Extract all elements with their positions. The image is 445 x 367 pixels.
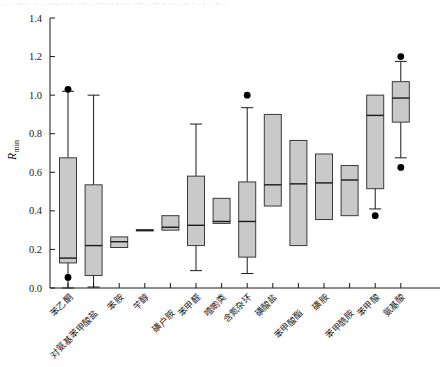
boxplot-group: [341, 166, 358, 288]
outlier-point: [244, 92, 251, 99]
boxplot-group: [316, 154, 333, 288]
boxplot-group: [367, 95, 384, 288]
box-iqr: [392, 82, 409, 123]
boxplot-group: [60, 86, 77, 288]
box-iqr: [341, 166, 358, 216]
x-axis-label: 苯甲酰胺: [323, 308, 356, 341]
outlier-point: [65, 274, 72, 281]
x-axis-label: 磺酸盐: [252, 292, 279, 319]
box-iqr: [85, 185, 102, 276]
outlier-point: [397, 164, 404, 171]
boxplot-group: [290, 140, 307, 288]
boxplot-group: [392, 53, 409, 288]
boxplot-group: [85, 95, 102, 288]
box-iqr: [367, 95, 384, 189]
boxplot-canvas: 0.00.20.40.60.81.01.21.4Rmin苯乙酮对氨基苯甲酸盐苯胺…: [0, 0, 445, 367]
box-iqr: [60, 158, 77, 263]
y-axis-title-base: R: [6, 153, 18, 161]
x-axis-label: 磺户胺: [150, 308, 177, 335]
x-axis-label-group: 磺酸盐: [252, 292, 279, 319]
x-axis-label: 苯甲酸酯: [272, 308, 305, 341]
x-axis-label-group: 磺户胺: [150, 308, 177, 335]
y-axis-title: Rmin: [6, 140, 21, 161]
box-iqr: [213, 198, 230, 223]
x-axis-label: 苯胺: [105, 292, 126, 313]
boxplot-group: [136, 230, 153, 288]
boxplot-group: [264, 114, 281, 288]
x-axis-label: 苯甲酸: [355, 292, 382, 319]
x-axis-label-group: 磺胺: [310, 292, 331, 313]
y-axis-tick-label: 0.8: [29, 128, 42, 139]
y-axis-tick-label: 0.6: [29, 167, 42, 178]
box-iqr: [162, 216, 179, 230]
x-axis-label: 含氮杂环: [220, 292, 253, 325]
y-axis-tick-label: 1.4: [29, 13, 43, 24]
x-axis-label: 苯甲醛: [176, 292, 203, 319]
x-axis-label: 苄醇: [131, 292, 152, 313]
x-axis-label-group: 氨基酸: [380, 292, 407, 319]
boxplot-group: [239, 92, 256, 288]
outlier-point: [65, 86, 72, 93]
x-axis-label-group: 含氮杂环: [220, 292, 253, 325]
x-axis-label-group: 苯甲酸: [355, 292, 382, 319]
y-axis-title-subscript: min: [12, 140, 21, 152]
box-iqr: [316, 154, 333, 220]
y-axis-title-text: Rmin: [6, 140, 21, 161]
x-axis-label-group: 苯甲酰胺: [323, 308, 356, 341]
boxplot-group: [188, 124, 205, 288]
x-axis-label: 磺胺: [310, 292, 331, 313]
y-axis-tick-label: 1.2: [29, 51, 42, 62]
x-axis-label-group: 苯乙酮: [48, 292, 75, 319]
outlier-point: [372, 212, 379, 219]
box-iqr: [239, 182, 256, 257]
boxplot-group: [111, 237, 128, 288]
box-iqr: [290, 140, 307, 245]
y-axis-tick-label: 0.0: [29, 283, 42, 294]
box-iqr: [264, 114, 281, 206]
x-axis-label-group: 苯甲醛: [176, 292, 203, 319]
x-axis-label-group: 苯甲酸酯: [272, 308, 305, 341]
x-axis-label: 氨基酸: [380, 292, 407, 319]
y-axis-tick-label: 0.4: [29, 205, 43, 216]
boxplot-group: [213, 198, 230, 288]
y-axis-tick-label: 1.0: [29, 90, 42, 101]
x-axis-label-group: 苯胺: [105, 292, 126, 313]
y-axis-tick-label: 0.2: [29, 244, 42, 255]
x-axis-label: 苯乙酮: [48, 292, 75, 319]
boxplot-group: [162, 216, 179, 288]
box-iqr: [188, 176, 205, 245]
boxplot-figure: — – •• •—• —••—•• •—•• —••—• •—•—•• —•• …: [0, 0, 445, 367]
outlier-point: [397, 53, 404, 60]
x-axis-label-group: 苄醇: [131, 292, 152, 313]
